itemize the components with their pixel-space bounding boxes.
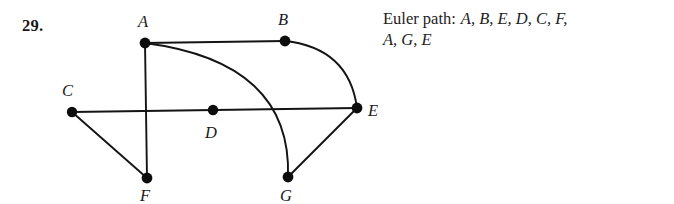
vertex-dot-e [352, 103, 363, 114]
vertex-label-g: G [280, 186, 292, 204]
euler-path-answer: Euler path:A, B, E, D, C, F, A, G, E [383, 8, 663, 50]
edge-e-g [288, 108, 357, 177]
vertex-dot-f [142, 173, 153, 184]
euler-path-sequence-line-1: A, B, E, D, C, F, [461, 9, 568, 28]
vertex-dot-d [208, 105, 218, 115]
euler-path-label: Euler path: [383, 9, 456, 28]
vertex-label-f: F [139, 186, 151, 204]
edge-b-e-curved [285, 41, 357, 108]
answer-line-1: Euler path:A, B, E, D, C, F, [383, 8, 663, 29]
edge-a-b [145, 41, 285, 43]
vertex-label-a: A [137, 12, 149, 31]
graph-vertex-labels: A B C D E F G [62, 10, 378, 204]
euler-path-sequence-line-2: A, G, E [383, 30, 432, 49]
edge-c-f [72, 112, 147, 178]
vertex-label-d: D [204, 123, 217, 142]
vertex-dot-a [140, 38, 151, 49]
vertex-label-e: E [367, 101, 378, 120]
vertex-label-b: B [278, 10, 288, 29]
graph-vertices [67, 36, 363, 184]
vertex-label-c: C [62, 81, 74, 100]
vertex-dot-b [280, 36, 291, 47]
vertex-dot-c [67, 107, 77, 117]
vertex-dot-g [283, 172, 294, 183]
graph-diagram: A B C D E F G [0, 0, 400, 204]
figure-root: 29. A B C D E [0, 0, 674, 204]
answer-line-2: A, G, E [383, 29, 663, 50]
